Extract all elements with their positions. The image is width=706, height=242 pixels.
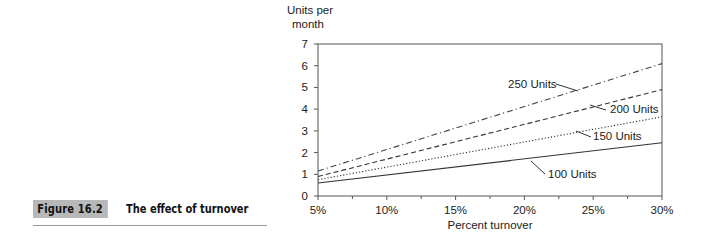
x-tick-label: 30% [650,204,673,216]
series-line-250-units [318,64,662,171]
y-axis-title-line2: month [292,18,324,30]
y-tick-label: 2 [302,147,308,159]
y-tick-label: 0 [302,190,308,202]
svg-text:100 Units: 100 Units [548,168,597,180]
y-tick-label: 1 [302,168,308,180]
x-tick-label: 25% [582,204,605,216]
y-tick-label: 7 [302,38,308,50]
plot-frame [318,44,662,196]
svg-text:250 Units: 250 Units [508,78,557,90]
y-tick-label: 5 [302,81,308,93]
x-axis: 5% 10% 15% 20% 25% 30% Percent turnover [310,196,674,231]
x-tick-label: 20% [513,204,536,216]
x-tick-label: 10% [375,204,398,216]
series-label-250-units: 250 Units [508,78,578,91]
series-label-150-units: 150 Units [576,130,642,142]
figure-number: Figure 16.2 [33,200,108,218]
x-tick-label: 15% [444,204,467,216]
x-axis-title: Percent turnover [447,219,532,231]
figure-title: The effect of turnover [126,202,248,216]
y-axis-title-line1: Units per [287,4,333,16]
svg-text:200 Units: 200 Units [610,103,659,115]
y-tick-label: 3 [302,125,308,137]
figure-caption: Figure 16.2 The effect of turnover [33,200,267,226]
series-line-100-units [318,143,662,183]
x-tick-label: 5% [310,204,327,216]
y-tick-label: 6 [302,60,308,72]
svg-text:150 Units: 150 Units [593,130,642,142]
y-tick-label: 4 [302,103,309,115]
series-label-100-units: 100 Units [531,161,597,180]
series-line-150-units [318,117,662,180]
y-axis: 0 1 2 3 4 5 6 7 [302,38,318,202]
